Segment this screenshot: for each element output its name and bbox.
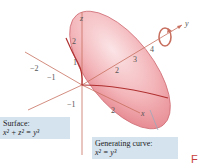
neg-x-tick-2: −2 [30,64,39,73]
surface-label-title: Surface: [3,119,67,128]
surface-equation: x² + z² = y³ [3,128,67,137]
curve-label-box: Generating curve: x² = y³ [92,137,178,159]
y-axis-label: y [185,19,189,28]
surface-label-box: Surface: x² + z² = y³ [0,117,70,139]
z-axis-label: z [80,14,83,23]
edge-fragment-text: F [191,153,199,165]
rotation-arrow-icon [159,28,172,46]
z-tick-neg1: −1 [67,100,76,109]
x-tick-2: 2 [111,106,115,115]
curve-equation: x² = y³ [95,148,175,157]
x-axis-label: x [141,109,145,118]
y-tick-2: 2 [115,66,119,75]
curve-label-title: Generating curve: [95,139,175,148]
y-tick-3: 3 [133,55,137,64]
neg-x-tick-1: −1 [47,73,56,82]
surface [51,0,189,145]
y-tick-4: 4 [150,45,154,54]
z-tick-2: 2 [72,37,76,46]
z-tick-1: 1 [73,58,77,67]
